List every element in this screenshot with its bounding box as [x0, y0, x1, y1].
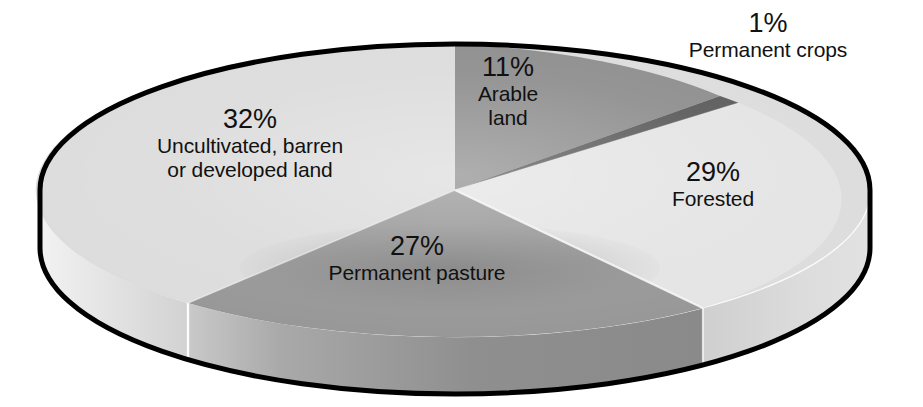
slice-name-arable-land-line2: land [440, 106, 576, 130]
slice-percent-forested: 29% [618, 157, 808, 187]
slice-label-arable-land: 11% Arable land [440, 52, 576, 129]
slice-name-forested: Forested [618, 187, 808, 211]
slice-name-arable-land-line1: Arable [440, 82, 576, 106]
slice-name-uncultivated-line1: Uncultivated, barren [100, 134, 400, 158]
slice-name-permanent-pasture: Permanent pasture [252, 261, 582, 285]
slice-percent-permanent-pasture: 27% [252, 231, 582, 261]
slice-label-permanent-pasture: 27% Permanent pasture [252, 231, 582, 285]
pie-chart: 1% Permanent crops 11% Arable land 29% F… [0, 0, 923, 407]
slice-label-permanent-crops: 1% Permanent crops [618, 8, 918, 62]
slice-percent-arable-land: 11% [440, 52, 576, 82]
slice-percent-permanent-crops: 1% [618, 8, 918, 38]
slice-label-forested: 29% Forested [618, 157, 808, 211]
slice-name-permanent-crops: Permanent crops [618, 38, 918, 62]
slice-label-uncultivated: 32% Uncultivated, barren or developed la… [100, 104, 400, 181]
slice-percent-uncultivated: 32% [100, 104, 400, 134]
slice-name-uncultivated-line2: or developed land [100, 158, 400, 182]
